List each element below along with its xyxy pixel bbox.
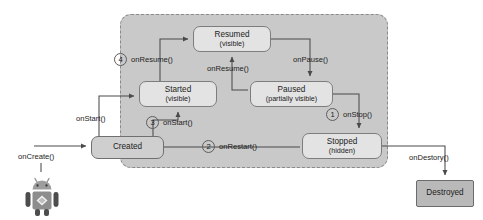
state-destroyed[interactable]: Destroyed bbox=[416, 180, 474, 207]
step-marker-2: 2 bbox=[202, 140, 215, 153]
state-stopped[interactable]: Stopped (hidden) bbox=[302, 133, 382, 159]
state-created-name: Created bbox=[113, 143, 142, 152]
state-paused[interactable]: Paused (partially visible) bbox=[250, 81, 333, 107]
activity-lifecycle-diagram: Resumed (visible) Started (visible) Paus… bbox=[0, 0, 483, 220]
state-paused-sub: (partially visible) bbox=[266, 95, 318, 103]
state-resumed-sub: (visible) bbox=[220, 40, 245, 48]
label-on-destroy: onDestory() bbox=[409, 153, 449, 162]
state-destroyed-name: Destroyed bbox=[426, 189, 463, 198]
state-stopped-sub: (hidden) bbox=[329, 147, 355, 155]
state-started-sub: (visible) bbox=[166, 95, 191, 103]
label-on-start-left: onStart() bbox=[76, 114, 106, 123]
label-on-restart: onRestart() bbox=[219, 142, 257, 151]
state-resumed[interactable]: Resumed (visible) bbox=[193, 26, 271, 52]
label-on-pause: onPause() bbox=[293, 55, 328, 64]
label-on-stop: onStop() bbox=[343, 110, 372, 119]
step-marker-1: 1 bbox=[326, 108, 339, 121]
android-robot-icon bbox=[22, 176, 62, 218]
label-on-create: onCreate() bbox=[18, 152, 54, 161]
state-started[interactable]: Started (visible) bbox=[139, 81, 217, 107]
label-on-resume-step4: onResume() bbox=[131, 55, 173, 64]
state-created[interactable]: Created bbox=[91, 136, 164, 159]
step-marker-3: 3 bbox=[146, 116, 159, 129]
label-on-start-step3: onStart() bbox=[163, 118, 193, 127]
label-on-resume-mid: onResume() bbox=[207, 64, 249, 73]
step-marker-4: 4 bbox=[114, 53, 127, 66]
